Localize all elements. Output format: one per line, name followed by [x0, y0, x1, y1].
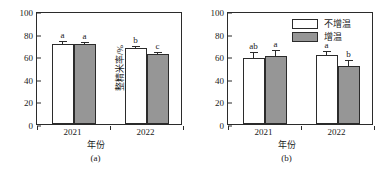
- x-axis-label-a: 年份: [0, 140, 191, 151]
- y-tick-mark-b-3: [228, 58, 232, 59]
- y-tick-label-b-5: 100: [190, 9, 228, 18]
- error-bar-b-2021-0: [253, 53, 254, 58]
- y-tick-label-b-1: 20: [190, 99, 228, 108]
- chart-panel-a: 精米率/% aabc 020406080100 年份 (a) 20212022: [0, 0, 191, 176]
- significance-letter-a-2021-1: a: [83, 32, 87, 41]
- y-tick-label-b-2: 40: [190, 76, 228, 85]
- error-bar-a-2021-0: [62, 42, 63, 43]
- y-tick-mark-a-1: [37, 103, 41, 104]
- bar-b-2021-control: [243, 58, 265, 124]
- significance-letter-b-2022-0: a: [325, 41, 329, 50]
- x-tick-mark-b-2: [374, 126, 375, 130]
- significance-letter-b-2021-0: ab: [249, 42, 258, 51]
- significance-letter-a-2022-1: c: [156, 42, 160, 51]
- x-axis-label-b: 年份: [191, 140, 382, 151]
- x-tick-mark-b-0: [228, 126, 229, 130]
- error-cap-a-2022-1: [154, 52, 162, 53]
- y-tick-mark-b-1: [228, 103, 232, 104]
- error-bar-b-2022-1: [348, 61, 349, 66]
- x-tick-label-b-0: 2021: [255, 127, 273, 137]
- bar-a-2022-warming: [147, 54, 169, 124]
- x-tick-label-a-1: 2022: [137, 127, 155, 137]
- y-tick-label-a-3: 60: [0, 54, 37, 63]
- legend-swatch-white-icon: [292, 19, 318, 29]
- plot-area-b: abaab 不增温 增温 020406080100: [227, 12, 373, 125]
- y-tick-label-b-0: 0: [190, 122, 228, 131]
- bar-b-2021-warming: [265, 56, 287, 124]
- y-tick-mark-a-3: [37, 58, 41, 59]
- y-tick-mark-a-2: [37, 80, 41, 81]
- error-bar-a-2021-1: [84, 43, 85, 44]
- y-tick-mark-b-2: [228, 80, 232, 81]
- y-tick-label-a-4: 80: [0, 31, 37, 40]
- panel-caption-b: (b): [191, 153, 382, 164]
- chart-panel-b: 整精米率/% abaab 不增温 增温 020406080100 年份 (b) …: [191, 0, 382, 176]
- error-bar-b-2021-1: [275, 51, 276, 57]
- error-cap-a-2021-1: [81, 42, 89, 43]
- y-tick-mark-b-4: [228, 35, 232, 36]
- legend-label-1: 增温: [324, 32, 342, 42]
- error-cap-a-2021-0: [59, 41, 67, 42]
- x-tick-label-b-1: 2022: [328, 127, 346, 137]
- error-bar-a-2022-0: [135, 47, 136, 48]
- bar-a-2021-control: [52, 44, 74, 124]
- error-cap-b-2022-1: [345, 60, 353, 61]
- error-cap-b-2021-0: [250, 52, 258, 53]
- error-cap-b-2022-0: [323, 51, 331, 52]
- y-tick-label-a-0: 0: [0, 122, 37, 131]
- legend-item-0: 不增温: [292, 19, 351, 29]
- legend-label-0: 不增温: [324, 19, 351, 29]
- legend: 不增温 增温: [292, 19, 351, 42]
- x-tick-mark-a-1: [110, 126, 111, 130]
- y-tick-label-a-5: 100: [0, 9, 37, 18]
- bar-a-2022-control: [125, 48, 147, 124]
- x-tick-label-a-0: 2021: [64, 127, 82, 137]
- y-tick-label-b-4: 80: [190, 31, 228, 40]
- error-bar-a-2022-1: [157, 53, 158, 54]
- panel-caption-a: (a): [0, 153, 191, 164]
- significance-letter-a-2021-0: a: [61, 31, 65, 40]
- bars-layer-a: aabc: [37, 13, 181, 124]
- x-tick-mark-a-0: [37, 126, 38, 130]
- bar-b-2022-control: [316, 55, 338, 124]
- y-axis-label-b: 整精米率/%: [114, 20, 126, 116]
- figure-container: 精米率/% aabc 020406080100 年份 (a) 20212022 …: [0, 0, 382, 176]
- significance-letter-b-2022-1: b: [346, 50, 351, 59]
- significance-letter-b-2021-1: a: [274, 40, 278, 49]
- error-cap-b-2021-1: [272, 50, 280, 51]
- y-tick-label-a-2: 40: [0, 76, 37, 85]
- x-tick-mark-a-2: [183, 126, 184, 130]
- y-tick-mark-b-5: [228, 13, 232, 14]
- x-tick-mark-b-1: [301, 126, 302, 130]
- y-tick-label-a-1: 20: [0, 99, 37, 108]
- y-tick-mark-a-5: [37, 13, 41, 14]
- y-tick-mark-a-4: [37, 35, 41, 36]
- significance-letter-a-2022-0: b: [133, 36, 138, 45]
- legend-item-1: 增温: [292, 32, 351, 42]
- error-cap-a-2022-0: [132, 46, 140, 47]
- bar-a-2021-warming: [74, 44, 96, 124]
- legend-swatch-gray-icon: [292, 32, 318, 42]
- error-bar-b-2022-0: [326, 52, 327, 55]
- y-tick-label-b-3: 60: [190, 54, 228, 63]
- plot-area-a: aabc 020406080100: [36, 12, 182, 125]
- bar-b-2022-warming: [338, 66, 360, 124]
